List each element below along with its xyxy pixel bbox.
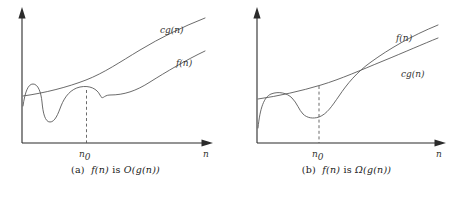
curve-label-cg-n-a: cg(n) — [160, 25, 184, 35]
panel-a: cg(n) f(n) n0 n (a) f(n) is O(g(n)) — [0, 0, 231, 197]
curve-label-f-n-a: f(n) — [175, 58, 193, 68]
caption-a-tag: (a) — [71, 164, 85, 175]
caption-b-predicate: Ω(g(n)) — [355, 164, 391, 175]
y-axis-arrowhead-b — [253, 7, 260, 19]
threshold-label-b: n0 — [312, 149, 324, 162]
caption-b-verb: is — [343, 164, 351, 175]
panel-b-plot: f(n) cg(n) n0 n — [231, 0, 462, 165]
x-axis-arrowhead-a — [202, 139, 214, 146]
x-axis-arrowhead-b — [435, 139, 447, 146]
caption-b: (b) f(n) is Ω(g(n)) — [231, 164, 462, 175]
x-axis-label-b: n — [436, 149, 442, 159]
caption-b-tag: (b) — [302, 164, 316, 175]
curve-label-cg-n-b: cg(n) — [401, 69, 425, 79]
panel-a-plot: cg(n) f(n) n0 n — [0, 0, 231, 165]
y-axis-arrowhead-a — [18, 7, 25, 19]
curve-label-f-n-b: f(n) — [395, 33, 413, 43]
big-o-omega-figure: cg(n) f(n) n0 n (a) f(n) is O(g(n)) — [0, 0, 462, 197]
caption-a: (a) f(n) is O(g(n)) — [0, 164, 231, 175]
threshold-label-a: n0 — [79, 149, 91, 162]
caption-a-verb: is — [112, 164, 120, 175]
caption-a-predicate: O(g(n)) — [124, 164, 160, 175]
caption-b-subject: f(n) — [322, 164, 340, 175]
x-axis-label-a: n — [203, 149, 209, 159]
panel-b: f(n) cg(n) n0 n (b) f(n) is Ω(g(n)) — [231, 0, 462, 197]
caption-a-subject: f(n) — [91, 164, 109, 175]
